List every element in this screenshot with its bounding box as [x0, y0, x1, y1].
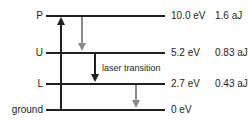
decay-arrow-p-to-u-line	[81, 17, 83, 45]
arrow-up-icon	[57, 17, 65, 25]
arrow-down-icon	[78, 43, 86, 51]
energy-value-ground: 0 eV	[171, 104, 192, 116]
decay-arrow-l-to-ground-line	[135, 85, 137, 101]
laser-transition-label: laser transition	[102, 62, 161, 74]
energy-level-diagram: P 10.0 eV 1.6 aJ U 5.2 eV 0.83 aJ L 2.7 …	[0, 0, 252, 122]
energy-alt-value-p: 1.6 aJ	[215, 10, 242, 22]
arrow-down-icon	[91, 74, 99, 82]
laser-transition-arrow-line	[94, 54, 96, 75]
level-label-u: U	[0, 47, 43, 59]
level-line-ground	[46, 109, 165, 111]
energy-alt-value-u: 0.83 aJ	[215, 47, 248, 59]
pump-arrow-line	[60, 20, 62, 109]
energy-value-p: 10.0 eV	[171, 10, 205, 22]
level-label-l: L	[0, 78, 43, 90]
level-line-u	[46, 52, 165, 54]
level-label-ground: ground	[0, 104, 43, 116]
energy-alt-value-l: 0.43 aJ	[215, 78, 248, 90]
level-line-l	[46, 83, 165, 85]
energy-value-l: 2.7 eV	[171, 78, 200, 90]
arrow-down-icon	[132, 100, 140, 108]
energy-value-u: 5.2 eV	[171, 47, 200, 59]
level-label-p: P	[0, 10, 43, 22]
